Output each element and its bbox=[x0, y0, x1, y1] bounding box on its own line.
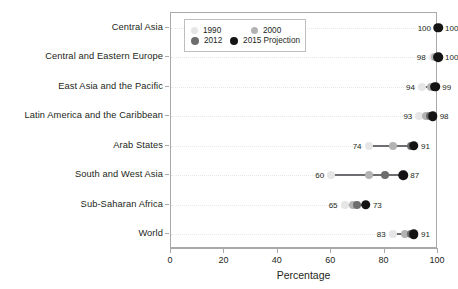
y-axis-tick bbox=[165, 115, 169, 116]
y-axis-tick bbox=[165, 174, 169, 175]
data-point-2015-projection bbox=[399, 171, 409, 181]
data-point-2015-projection bbox=[409, 141, 419, 151]
data-point-2012 bbox=[353, 201, 361, 209]
data-label-left: 60 bbox=[315, 171, 324, 180]
chart-figure: Central AsiaCentral and Eastern EuropeEa… bbox=[0, 0, 458, 289]
data-label-right: 91 bbox=[421, 141, 430, 150]
row-guide-line bbox=[171, 205, 339, 207]
x-axis-tick-label: 80 bbox=[379, 255, 389, 265]
data-label-left: 74 bbox=[353, 141, 362, 150]
row-guide-line bbox=[171, 234, 387, 236]
data-label-left: 83 bbox=[377, 230, 386, 239]
legend-label: 2015 Projection bbox=[243, 36, 300, 45]
x-axis-title: Percentage bbox=[170, 269, 437, 281]
data-point-2015-projection bbox=[433, 23, 443, 33]
legend-entry-2015-projection: 2015 Projection bbox=[230, 36, 300, 45]
data-point-2015-projection bbox=[428, 112, 438, 122]
legend-label: 1990 bbox=[203, 26, 221, 35]
row-guide-line bbox=[171, 87, 416, 89]
data-label-right: 87 bbox=[410, 171, 419, 180]
x-axis-tick bbox=[437, 248, 438, 253]
data-point-1990 bbox=[341, 201, 349, 209]
data-point-2015-projection bbox=[433, 53, 443, 63]
chart-legend: 1990 2000 2012 2015 Projection bbox=[184, 19, 306, 52]
data-label-left: 94 bbox=[406, 82, 415, 91]
x-axis-tick-label: 0 bbox=[167, 255, 172, 265]
legend-entry-2000: 2000 bbox=[251, 26, 281, 35]
data-label-right: 100 bbox=[445, 23, 458, 32]
y-axis-category-label: East Asia and the Pacific bbox=[0, 81, 163, 91]
data-label-left: 100 bbox=[418, 23, 431, 32]
row-guide-line bbox=[171, 57, 427, 59]
data-point-2015-projection bbox=[409, 230, 419, 240]
x-axis-tick-label: 100 bbox=[429, 255, 444, 265]
y-axis-category-label: Central Asia bbox=[0, 22, 163, 32]
data-label-right: 100 bbox=[445, 53, 458, 62]
x-axis-tick bbox=[170, 248, 171, 253]
data-label-right: 98 bbox=[440, 112, 449, 121]
y-axis-tick bbox=[165, 27, 169, 28]
plot-area: 10010098100949993987491608765738391 1990… bbox=[170, 12, 437, 248]
data-point-1990 bbox=[389, 230, 397, 238]
y-axis-category-label: Latin America and the Caribbean bbox=[0, 110, 163, 120]
y-axis-category-label: Arab States bbox=[0, 140, 163, 150]
data-point-2015-projection bbox=[431, 82, 441, 92]
data-label-left: 65 bbox=[329, 200, 338, 209]
y-axis-category-label: Central and Eastern Europe bbox=[0, 51, 163, 61]
data-point-2012 bbox=[381, 171, 389, 179]
legend-swatch-icon bbox=[191, 37, 199, 45]
data-label-right: 99 bbox=[442, 82, 451, 91]
x-axis-tick bbox=[223, 248, 224, 253]
data-label-right: 73 bbox=[373, 200, 382, 209]
x-axis-tick-label: 20 bbox=[218, 255, 228, 265]
legend-label: 2012 bbox=[204, 36, 222, 45]
data-point-2015-projection bbox=[361, 200, 371, 210]
data-label-left: 93 bbox=[403, 112, 412, 121]
legend-entry-1990: 1990 bbox=[191, 26, 251, 35]
x-axis-tick bbox=[330, 248, 331, 253]
y-axis-tick bbox=[165, 56, 169, 57]
x-axis-tick-label: 40 bbox=[272, 255, 282, 265]
y-axis-tick bbox=[165, 233, 169, 234]
y-axis-tick bbox=[165, 145, 169, 146]
data-point-1990 bbox=[327, 171, 335, 179]
legend-row: 1990 2000 bbox=[191, 26, 300, 35]
row-guide-line bbox=[171, 116, 413, 118]
legend-row: 2012 2015 Projection bbox=[191, 36, 300, 45]
y-axis-tick bbox=[165, 86, 169, 87]
data-point-1990 bbox=[365, 142, 373, 150]
data-label-left: 98 bbox=[417, 53, 426, 62]
y-axis-category-label: World bbox=[0, 228, 163, 238]
y-axis-category-label: South and West Asia bbox=[0, 169, 163, 179]
x-axis-tick bbox=[384, 248, 385, 253]
row-guide-line bbox=[171, 146, 363, 148]
legend-swatch-icon bbox=[230, 37, 238, 45]
data-label-right: 91 bbox=[421, 230, 430, 239]
legend-entry-2012: 2012 bbox=[191, 36, 230, 45]
data-point-1990 bbox=[418, 83, 426, 91]
legend-swatch-icon bbox=[251, 27, 258, 34]
y-axis-category-label: Sub-Saharan Africa bbox=[0, 199, 163, 209]
x-axis-tick-label: 60 bbox=[325, 255, 335, 265]
data-point-2000 bbox=[365, 171, 373, 179]
row-guide-line bbox=[171, 175, 325, 177]
legend-swatch-icon bbox=[191, 27, 198, 34]
y-axis-tick bbox=[165, 204, 169, 205]
x-axis-line bbox=[170, 248, 437, 249]
data-point-2000 bbox=[389, 142, 397, 150]
legend-label: 2000 bbox=[263, 26, 281, 35]
x-axis-tick bbox=[277, 248, 278, 253]
